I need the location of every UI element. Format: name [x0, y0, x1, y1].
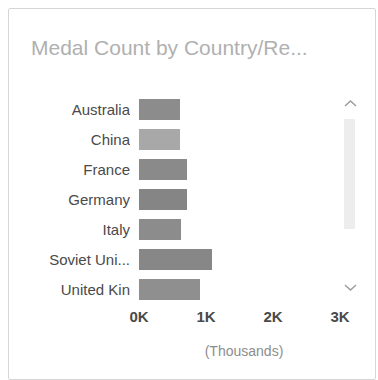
- category-label: United Kin: [9, 275, 130, 305]
- bar-track: [139, 125, 349, 155]
- bar-row[interactable]: Germany: [9, 185, 378, 215]
- category-label: Germany: [9, 185, 130, 215]
- bar-track: [139, 95, 349, 125]
- category-label: Italy: [9, 215, 130, 245]
- x-axis-tick-label: 0K: [119, 307, 159, 327]
- scrollbar-thumb[interactable]: [344, 119, 355, 229]
- bar-track: [139, 275, 349, 305]
- bar-track: [139, 245, 349, 275]
- bar-row[interactable]: Italy: [9, 215, 378, 245]
- bar-chart-plot-area: AustraliaChinaFranceGermanyItalySoviet U…: [9, 95, 378, 305]
- bar[interactable]: [139, 99, 180, 120]
- bar-row[interactable]: France: [9, 155, 378, 185]
- bar[interactable]: [139, 219, 181, 240]
- page-title: Medal Count by Country/Re...: [31, 35, 361, 61]
- bar-row[interactable]: Australia: [9, 95, 378, 125]
- category-label: China: [9, 125, 130, 155]
- bar[interactable]: [139, 189, 187, 210]
- x-axis-tick-label: 1K: [186, 307, 226, 327]
- x-axis-tick-label: 3K: [320, 307, 360, 327]
- chevron-up-icon[interactable]: [339, 97, 361, 113]
- bar[interactable]: [139, 249, 212, 270]
- x-axis-tick-label: 2K: [253, 307, 293, 327]
- bar[interactable]: [139, 159, 187, 180]
- bar[interactable]: [139, 279, 200, 300]
- bar-track: [139, 185, 349, 215]
- chevron-down-icon[interactable]: [339, 281, 361, 297]
- category-scrollbar[interactable]: [339, 97, 361, 297]
- bar-track: [139, 155, 349, 185]
- bar-track: [139, 215, 349, 245]
- category-label: Australia: [9, 95, 130, 125]
- bar-row[interactable]: Soviet Uni...: [9, 245, 378, 275]
- category-label: France: [9, 155, 130, 185]
- x-axis-title: (Thousands): [139, 343, 349, 359]
- bar-row[interactable]: China: [9, 125, 378, 155]
- category-label: Soviet Uni...: [9, 245, 130, 275]
- bar[interactable]: [139, 129, 180, 150]
- bar-row[interactable]: United Kin: [9, 275, 378, 305]
- chart-card: Medal Count by Country/Re... AustraliaCh…: [8, 8, 376, 380]
- x-axis: 0K1K2K3K: [9, 307, 378, 329]
